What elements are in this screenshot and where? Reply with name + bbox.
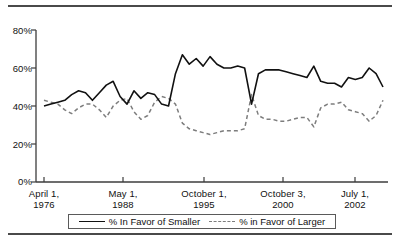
plot-area [0, 0, 400, 239]
series-line-smaller [44, 55, 383, 106]
legend-entry-larger: % in Favor of Larger [209, 216, 325, 227]
x-tick-marks [44, 177, 355, 182]
legend-label-smaller: % In Favor of Smaller [109, 216, 200, 227]
y-tick-marks [31, 30, 36, 182]
chart-legend: % In Favor of Smaller % in Favor of Larg… [68, 214, 336, 229]
legend-swatch-solid-icon [79, 221, 105, 222]
chart-figure: 80% 60% 40% 20% 0% April 1, 1976 May 1, … [0, 0, 400, 239]
legend-label-larger: % in Favor of Larger [239, 216, 325, 227]
axes [31, 30, 388, 182]
legend-entry-smaller: % In Favor of Smaller [79, 216, 200, 227]
legend-swatch-dashed-icon [209, 221, 235, 222]
series-line-larger [44, 95, 383, 135]
series-group [44, 55, 383, 135]
